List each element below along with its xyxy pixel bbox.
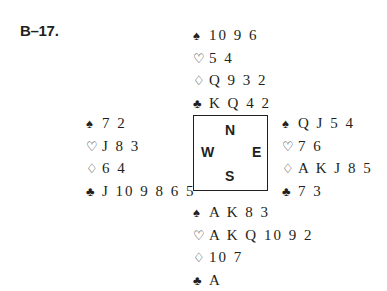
heart-icon: ♡ [193,48,209,71]
east-hand: ♠Q J 5 4 ♡7 6 ♢A K J 8 5 ♣7 3 [282,112,373,202]
south-spades: ♠A K 8 3 [193,201,313,224]
compass-east: E [252,144,261,160]
heart-icon: ♡ [86,136,102,159]
west-spades: ♠7 2 [86,112,196,135]
west-clubs: ♣J 10 9 8 6 5 [86,180,196,203]
north-clubs: ♣K Q 4 2 [193,92,271,115]
spade-icon: ♠ [282,113,298,136]
diamond-icon: ♢ [282,158,298,181]
diamond-icon: ♢ [86,158,102,181]
west-hearts: ♡J 8 3 [86,135,196,158]
compass-west: W [201,144,214,160]
compass-box: N W E S [193,115,268,191]
spade-icon: ♠ [193,25,209,48]
west-hand: ♠7 2 ♡J 8 3 ♢6 4 ♣J 10 9 8 6 5 [86,112,196,202]
club-icon: ♣ [86,181,102,204]
north-spades: ♠10 9 6 [193,24,271,47]
south-hand: ♠A K 8 3 ♡A K Q 10 9 2 ♢10 7 ♣A [193,201,313,291]
east-hearts: ♡7 6 [282,135,373,158]
north-hand: ♠10 9 6 ♡5 4 ♢Q 9 3 2 ♣K Q 4 2 [193,24,271,114]
club-icon: ♣ [193,270,209,291]
east-spades: ♠Q J 5 4 [282,112,373,135]
diamond-icon: ♢ [193,247,209,270]
west-diamonds: ♢6 4 [86,157,196,180]
spade-icon: ♠ [193,202,209,225]
spade-icon: ♠ [86,113,102,136]
heart-icon: ♡ [193,225,209,248]
heart-icon: ♡ [282,136,298,159]
club-icon: ♣ [282,181,298,204]
south-diamonds: ♢10 7 [193,246,313,269]
south-hearts: ♡A K Q 10 9 2 [193,224,313,247]
problem-label: B–17. [20,22,59,39]
south-clubs: ♣A [193,269,313,291]
east-clubs: ♣7 3 [282,180,373,203]
north-hearts: ♡5 4 [193,47,271,70]
compass-north: N [225,122,235,138]
diamond-icon: ♢ [193,70,209,93]
east-diamonds: ♢A K J 8 5 [282,157,373,180]
compass-south: S [225,168,234,184]
north-diamonds: ♢Q 9 3 2 [193,69,271,92]
